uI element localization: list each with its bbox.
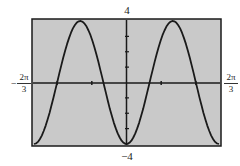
y-min-label: −4 xyxy=(117,151,137,162)
graph-svg xyxy=(0,0,240,166)
x-max-denominator: 3 xyxy=(224,84,238,94)
x-min-numerator: 2π xyxy=(17,73,31,84)
x-max-numerator: 2π xyxy=(224,73,238,84)
x-min-denominator: 3 xyxy=(17,84,31,94)
x-max-label: 2π 3 xyxy=(224,73,238,94)
x-min-label: 2π 3 xyxy=(17,73,31,94)
y-max-label: 4 xyxy=(121,5,133,16)
x-min-sign: − xyxy=(11,78,17,89)
